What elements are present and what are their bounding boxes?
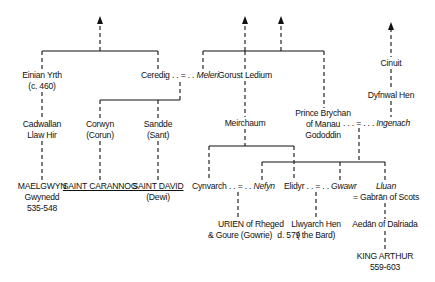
person-dates: 559-603 [357, 262, 413, 273]
person-name: Einian Yrth [22, 70, 62, 81]
person-name: Lluan [353, 181, 419, 192]
person-name: KING ARTHUR [357, 251, 413, 262]
person-maelgwyn: MAELGWYN Gwynedd 535-548 [18, 181, 67, 214]
person-date: (c. 460) [22, 81, 62, 92]
person-name: MAELGWYN [18, 181, 67, 192]
person-name: Gorust Ledium [218, 70, 272, 80]
person-name: Elidyr [284, 181, 304, 191]
person-saint-david: SAINT DAVID (Dewi) [133, 181, 184, 203]
person-meirchaum: Meirchaum [225, 118, 266, 129]
person-gorust-ledium: Gorust Ledium [218, 70, 272, 81]
person-name: Corwyn [86, 119, 114, 130]
person-name: Ceredig [141, 70, 170, 80]
arrow-up-icon [278, 16, 284, 24]
person-name: Cadwallan [23, 119, 61, 130]
person-title: Gododdin [295, 130, 350, 141]
person-alt-name: (Dewi) [133, 192, 184, 203]
arrow-up-icon [242, 16, 248, 24]
person-realm: Gwynedd [18, 192, 67, 203]
person-einian-yrth: Einian Yrth (c. 460) [22, 70, 62, 92]
person-corwyn: Corwyn (Corun) [86, 119, 114, 141]
couple-brychan-ingenach: . . . = . . . Ingenach [343, 118, 410, 129]
person-name: Aedān of Dalriada [352, 219, 417, 229]
person-epithet: ( the Bard) [291, 230, 341, 241]
arrow-up-icon [97, 16, 103, 24]
person-name: Llwyarch Hen [291, 219, 341, 230]
person-aedan: Aedān of Dalriada [352, 219, 417, 230]
marriage-connector: . . = . . [172, 70, 194, 80]
person-alt-name: (Sant) [144, 130, 172, 141]
person-epithet: Llaw Hir [23, 130, 61, 141]
person-llywarch-hen: Llwyarch Hen ( the Bard) [291, 219, 341, 241]
person-name: Sandde [144, 119, 172, 130]
person-saint-carannog: SAINT CARANNOG [63, 181, 137, 192]
marriage-connector: . . . = . . . [343, 118, 374, 128]
spouse-name: Meleri [196, 70, 218, 80]
person-cinuit: Cinuit [381, 58, 402, 69]
person-name: SAINT CARANNOG [63, 181, 137, 191]
person-name: SAINT DAVID [133, 181, 184, 192]
person-alt-name: (Corun) [86, 130, 114, 141]
spouse-name: Nefyn [253, 181, 274, 191]
person-dates: 535-548 [18, 203, 67, 214]
marriage-connector: . . = . . [307, 181, 329, 191]
couple-cynvarch-nefyn: Cynvarch . . = . . Nefyn [192, 181, 275, 192]
person-cadwallan: Cadwallan Llaw Hir [23, 119, 61, 141]
person-realm: & Goure (Gowrie) [208, 230, 272, 240]
arrow-up-icon [388, 22, 394, 30]
couple-ceredig-meleri: Ceredig . . = . . Meleri [141, 70, 219, 81]
couple-elidyr-gwawr: Elidyr . . = . . Gwawr [284, 181, 357, 192]
person-lluan: Lluan = Gabrān of Scots [353, 181, 419, 203]
person-name: Cinuit [381, 58, 402, 68]
person-king-arthur: KING ARTHUR 559-603 [357, 251, 413, 273]
person-urien: URIEN of Rheged & Goure (Gowrie) d. 579 [208, 219, 300, 241]
spouse-name: Ingenach [376, 118, 410, 128]
marriage-connector: . . = . . [229, 181, 251, 191]
person-dyfnwal-hen: Dyfnwal Hen [368, 90, 415, 101]
person-sandde: Sandde (Sant) [144, 119, 172, 141]
person-name: Dyfnwal Hen [368, 90, 415, 100]
person-name: Meirchaum [225, 118, 266, 128]
person-name: URIEN of Rheged [208, 219, 300, 230]
person-name: Cynvarch [192, 181, 227, 191]
spouse-name: = Gabrān of Scots [353, 192, 419, 203]
